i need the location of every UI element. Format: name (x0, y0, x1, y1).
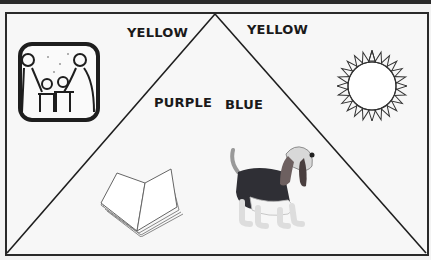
label-yellow-left: YELLOW (127, 25, 188, 40)
dog-picture (228, 142, 324, 230)
sun-picture (333, 47, 411, 125)
label-yellow-right: YELLOW (247, 22, 308, 37)
triangle-divider-lines (0, 0, 431, 260)
book-picture (97, 165, 183, 237)
label-blue: BLUE (225, 97, 263, 112)
label-purple: PURPLE (154, 95, 212, 110)
family-picture (18, 42, 100, 122)
